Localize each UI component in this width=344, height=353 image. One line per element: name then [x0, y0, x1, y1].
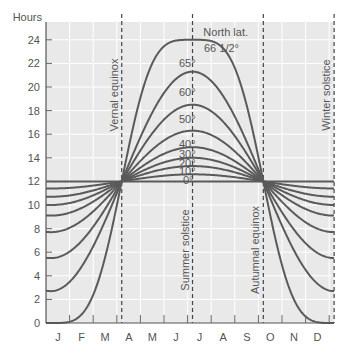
latitude-label: 66 1/2°: [204, 42, 239, 54]
month-label: O: [266, 331, 275, 343]
latitude-label: 65°: [179, 57, 196, 69]
y-tick-label: 12: [28, 175, 40, 187]
legend-title: North lat.: [203, 26, 248, 38]
month-label: J: [55, 331, 61, 343]
month-label: M: [101, 331, 110, 343]
y-tick-label: 22: [28, 57, 40, 69]
month-label: J: [173, 331, 179, 343]
month-label: F: [78, 331, 85, 343]
latitude-label: 60°: [179, 86, 196, 98]
y-tick-label: 2: [34, 293, 40, 305]
y-tick-label: 8: [34, 223, 40, 235]
y-tick-label: 20: [28, 81, 40, 93]
y-tick-label: 18: [28, 105, 40, 117]
month-label: A: [125, 331, 133, 343]
y-tick-label: 0: [34, 317, 40, 329]
event-label: Autumnal equinox: [249, 205, 261, 294]
month-label: M: [148, 331, 157, 343]
month-label: N: [290, 331, 298, 343]
month-label: A: [220, 331, 228, 343]
latitude-label: 40°: [179, 138, 196, 150]
event-label: Vernal equinox: [108, 58, 120, 131]
event-label: Summer solstice: [179, 209, 191, 290]
month-label: S: [243, 331, 250, 343]
latitude-label: 50°: [179, 113, 196, 125]
event-label: Winter solstice: [320, 59, 332, 131]
y-tick-label: 16: [28, 128, 40, 140]
y-tick-label: 10: [28, 199, 40, 211]
month-label: D: [314, 331, 322, 343]
y-tick-label: 24: [28, 34, 40, 46]
y-tick-label: 4: [34, 270, 40, 282]
daylight-hours-chart: Vernal equinoxSummer solsticeAutumnal eq…: [0, 0, 344, 353]
y-tick-label: 14: [28, 152, 40, 164]
y-tick-label: 6: [34, 246, 40, 258]
month-label: J: [197, 331, 203, 343]
y-axis-title: Hours: [13, 11, 43, 23]
